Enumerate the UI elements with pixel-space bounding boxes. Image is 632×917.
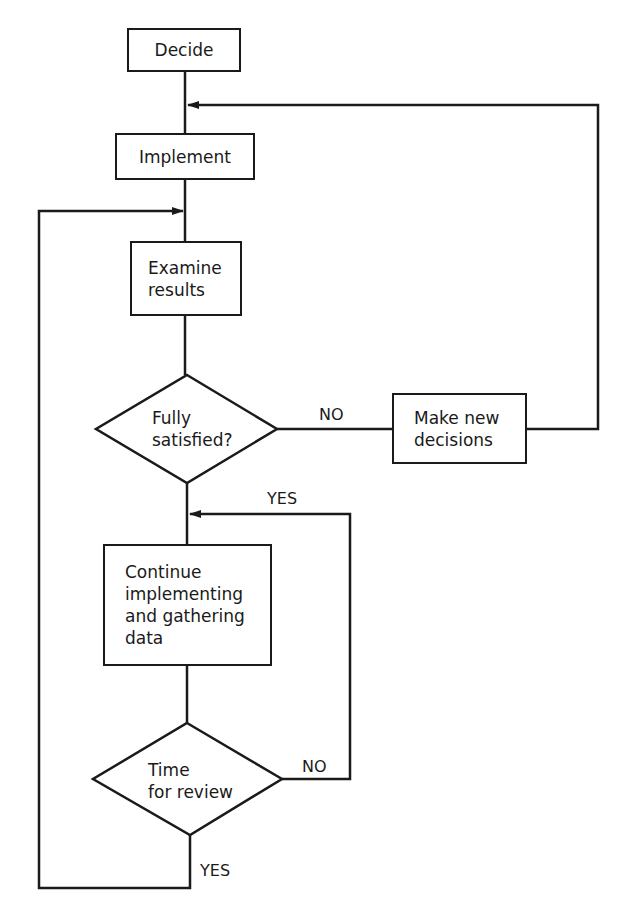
examine-line-1: Examine (148, 257, 222, 279)
time-for-review-line-2: for review (148, 781, 233, 803)
make-new-decisions-line-2: decisions (414, 429, 493, 451)
time-for-review-line-1: Time (148, 759, 190, 781)
satisfied-no-label: NO (319, 406, 344, 424)
implement-box: Implement (115, 133, 255, 180)
decide-label: Decide (155, 39, 214, 61)
satisfied-yes-label: YES (267, 490, 297, 508)
decide-box: Decide (127, 28, 241, 72)
review-no-label: NO (302, 758, 327, 776)
make-new-decisions-box: Make new decisions (392, 393, 527, 464)
fully-satisfied-line-1: Fully (152, 407, 191, 429)
examine-results-box: Examine results (130, 241, 242, 316)
time-for-review-text: Time for review (146, 757, 256, 805)
continue-line-1: Continue (125, 561, 201, 583)
fully-satisfied-text: Fully satisfied? (130, 405, 250, 453)
make-new-decisions-line-1: Make new (414, 407, 499, 429)
implement-label: Implement (139, 146, 231, 168)
continue-line-4: data (125, 627, 163, 649)
continue-line-3: and gathering (125, 605, 245, 627)
continue-implementing-box: Continue implementing and gathering data (103, 544, 272, 666)
continue-line-2: implementing (125, 583, 243, 605)
review-yes-label: YES (200, 862, 230, 880)
fully-satisfied-line-2: satisfied? (152, 429, 233, 451)
examine-line-2: results (148, 279, 205, 301)
connector-lines (0, 0, 632, 917)
